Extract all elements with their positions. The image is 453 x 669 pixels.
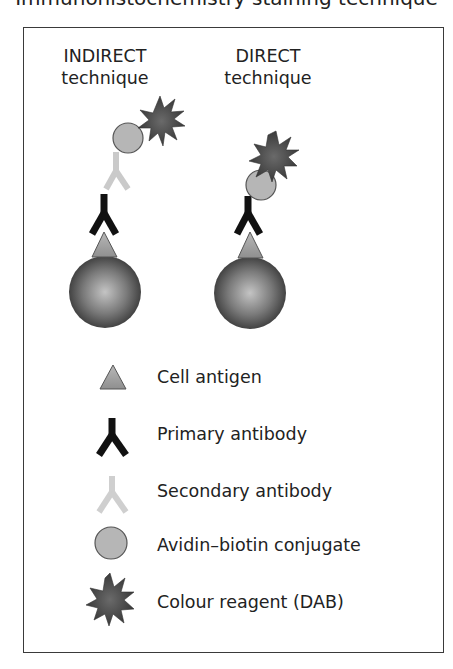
direct-assembly xyxy=(214,131,299,329)
legend-primary-antibody-icon xyxy=(99,418,126,455)
cell-sphere-icon xyxy=(214,257,286,329)
legend-secondary-antibody-icon xyxy=(99,476,126,512)
legend-antigen-icon xyxy=(100,365,126,389)
cell-antigen-icon xyxy=(238,232,263,258)
legend-conjugate-icon xyxy=(95,527,127,559)
indirect-assembly xyxy=(69,96,185,328)
legend-reagent-icon xyxy=(86,573,134,626)
legend-label-avidin-biotin: Avidin–biotin conjugate xyxy=(157,535,361,555)
legend-label-primary-antibody: Primary antibody xyxy=(157,424,307,444)
colour-reagent-icon xyxy=(138,96,185,146)
primary-antibody-icon xyxy=(92,194,116,234)
cell-antigen-icon xyxy=(92,232,117,257)
cell-sphere-icon xyxy=(69,256,141,328)
legend-icons xyxy=(86,365,134,626)
primary-antibody-icon xyxy=(237,196,260,234)
secondary-antibody-icon xyxy=(106,152,128,189)
legend-label-cell-antigen: Cell antigen xyxy=(157,367,262,387)
diagram-graphics xyxy=(0,0,453,669)
legend-label-secondary-antibody: Secondary antibody xyxy=(157,481,332,501)
legend-label-colour-reagent: Colour reagent (DAB) xyxy=(157,592,344,612)
